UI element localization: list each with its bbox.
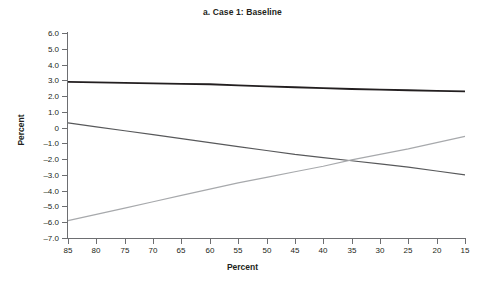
series-line-ascending-line (68, 136, 465, 220)
series-plot (0, 0, 485, 287)
series-line-top-flat-line (68, 82, 465, 91)
chart-figure: a. Case 1: Baseline 6.05.04.03.02.01.00–… (0, 0, 485, 287)
